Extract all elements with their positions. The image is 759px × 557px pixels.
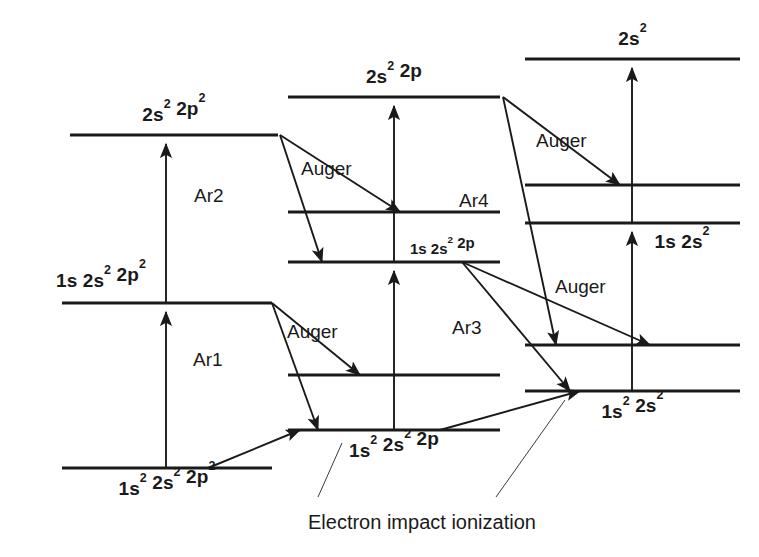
ar2-L1-to-M3: [280, 135, 322, 262]
level-label-r5: 1s2 2s2: [601, 388, 663, 422]
energy-level-diagram: 2s2 2p21s 2s2 2p21s2 2s2 2p22s2 2p1s 2s2…: [0, 0, 759, 557]
level-label-r3: 1s 2s2: [655, 224, 710, 252]
process-label-t7: Auger: [555, 276, 606, 297]
process-label-t6: Ar4: [459, 190, 489, 211]
level-label-m3: 1s 2s2 2p: [410, 234, 475, 258]
excitation-arrows-group: [166, 68, 632, 468]
caption-electron-impact-ionization: Electron impact ionization: [308, 511, 536, 533]
level-label-l3: 1s2 2s2 2p2: [118, 459, 215, 499]
auger-M3-to-R4: [462, 262, 650, 345]
process-label-t8: Ar3: [452, 317, 482, 338]
state-labels-group: 2s2 2p21s 2s2 2p21s2 2s2 2p22s2 2p1s 2s2…: [56, 21, 710, 499]
process-label-t2: Ar2: [194, 185, 224, 206]
process-label-t3: Auger: [287, 321, 338, 342]
process-label-t5: Auger: [536, 130, 587, 151]
ionization-M5-to-R5: [440, 391, 580, 430]
level-label-l1: 2s2 2p2: [142, 91, 205, 125]
process-label-t1: Auger: [301, 158, 352, 179]
ionization-L3-to-M5: [208, 430, 300, 468]
caption-leader-right: [496, 400, 565, 497]
level-label-l2: 1s 2s2 2p2: [56, 257, 146, 291]
diagram-canvas: 2s2 2p21s 2s2 2p21s2 2s2 2p22s2 2p1s 2s2…: [0, 0, 759, 557]
level-label-m5: 1s2 2s2 2p: [349, 427, 439, 461]
process-label-t4: Ar1: [193, 349, 223, 370]
process-labels-group: AugerAr2AugerAr1AugerAr4AugerAr3: [193, 130, 606, 370]
level-label-m1: 2s2 2p: [366, 59, 422, 87]
level-label-r1: 2s2: [618, 21, 646, 49]
caption-leader-left: [318, 443, 342, 497]
